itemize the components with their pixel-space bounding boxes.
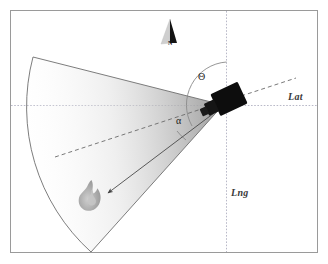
lat-axis-label: Lat <box>288 92 303 102</box>
alpha-angle-label: α <box>176 116 181 126</box>
lng-axis-label: Lng <box>231 188 249 198</box>
diagram-svg <box>0 0 328 264</box>
diagram-canvas: Lat Lng Θ α N <box>0 0 328 264</box>
north-label: N <box>168 40 172 46</box>
theta-angle-label: Θ <box>198 72 205 82</box>
fov-sector <box>27 57 223 252</box>
